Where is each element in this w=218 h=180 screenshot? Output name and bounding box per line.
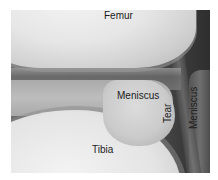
label-meniscus-side: Meniscus [189,87,199,129]
label-meniscus: Meniscus [117,91,159,101]
label-femur: Femur [104,11,133,21]
label-tibia: Tibia [92,145,113,155]
label-tear: Tear [163,104,173,123]
